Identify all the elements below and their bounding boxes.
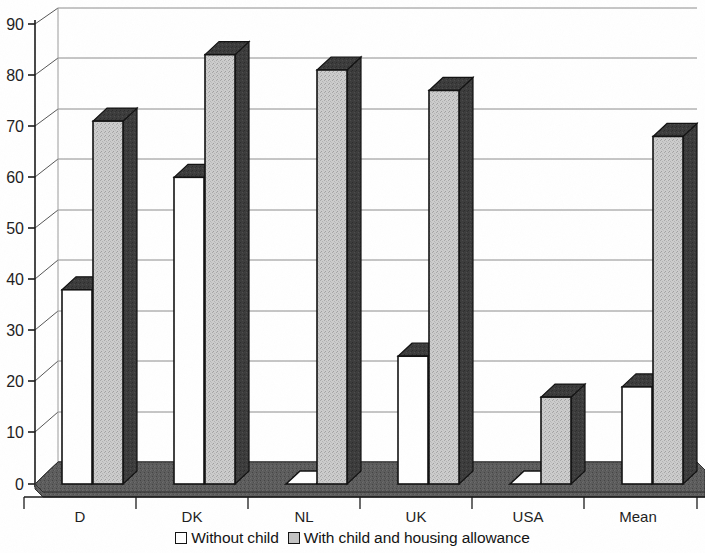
bar-front-face (398, 356, 428, 484)
y-tick-90: 90 (6, 16, 24, 33)
bar-side-face (683, 123, 697, 484)
bar-uk-series1 (429, 77, 473, 484)
y-axis-labels: 90 80 70 60 50 40 30 20 10 0 (6, 16, 24, 493)
legend-label-without-child: Without child (191, 529, 278, 547)
bar-front-face (541, 397, 571, 484)
y-tick-80: 80 (6, 67, 24, 84)
x-axis-labels: D DK NL UK USA Mean (75, 508, 657, 525)
y-tick-50: 50 (6, 220, 24, 237)
cat-label-nl: NL (294, 508, 313, 525)
bar-chart: 90 80 70 60 50 40 30 20 10 0 (0, 0, 705, 553)
y-tick-40: 40 (6, 271, 24, 288)
bar-front-face (622, 387, 652, 484)
y-axis-ticks (28, 24, 35, 484)
y-tick-60: 60 (6, 169, 24, 186)
bar-side-face (459, 77, 473, 484)
bar-front-face (429, 90, 459, 484)
bar-usa-series1 (541, 384, 585, 484)
y-tick-0: 0 (15, 476, 24, 493)
y-tick-20: 20 (6, 373, 24, 390)
bar-side-face (235, 42, 249, 484)
chart-canvas: 90 80 70 60 50 40 30 20 10 0 (0, 0, 705, 553)
bar-dk-series1 (205, 42, 249, 484)
legend-item-without-child: Without child (175, 529, 278, 547)
bar-front-face (653, 136, 683, 484)
bar-front-face (317, 70, 347, 484)
y-tick-10: 10 (6, 424, 24, 441)
y-tick-30: 30 (6, 322, 24, 339)
legend-swatch-gray-icon (288, 532, 300, 544)
bar-mean-series1 (653, 123, 697, 484)
bar-d-series1 (93, 108, 137, 484)
cat-label-d: D (75, 508, 86, 525)
cat-label-uk: UK (406, 508, 427, 525)
bar-side-face (571, 384, 585, 484)
bar-front-face (62, 290, 92, 484)
depth-wall-left (35, 8, 58, 487)
bar-front-face (174, 177, 204, 484)
plot-back-wall (58, 8, 697, 463)
bar-front-face (93, 121, 123, 484)
cat-label-usa: USA (513, 508, 544, 525)
legend-swatch-white-icon (175, 532, 187, 544)
bar-side-face (123, 108, 137, 484)
bar-nl-series1 (317, 57, 361, 484)
bar-front-face (205, 55, 235, 484)
legend-label-with-child: With child and housing allowance (304, 529, 530, 547)
cat-label-dk: DK (182, 508, 203, 525)
y-tick-70: 70 (6, 118, 24, 135)
chart-legend: Without child With child and housing all… (0, 524, 705, 552)
x-axis (24, 497, 705, 509)
cat-label-mean: Mean (619, 508, 657, 525)
bar-side-face (347, 57, 361, 484)
legend-item-with-child: With child and housing allowance (288, 529, 530, 547)
